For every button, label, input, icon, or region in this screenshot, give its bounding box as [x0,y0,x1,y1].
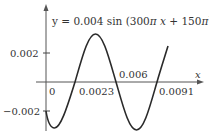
y-tick-label-neg-0.002: −0.002 [3,106,40,117]
y-axis-arrow-icon [44,4,49,11]
x-label-0.006: 0.006 [119,69,148,80]
x-label-0.0091: 0.0091 [159,86,194,97]
x-label-0.0023: 0.0023 [79,86,114,97]
sine-wave-chart: y = 0.004 sin (300π x + 150π2) 0.002 −0.… [0,0,209,133]
equation-label: y = 0.004 sin (300π x + 150π2) [51,15,209,27]
x-axis-arrow-icon [197,80,204,85]
y-tick-label-0.002: 0.002 [10,48,39,59]
x-axis-label: x [195,69,201,80]
x-label-origin: 0 [49,86,55,97]
